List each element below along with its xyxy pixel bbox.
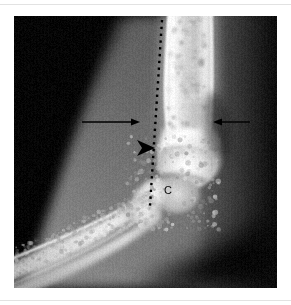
capitellum-label: C — [164, 185, 172, 196]
radiograph-panel: C — [14, 16, 277, 288]
figure-top-rule — [0, 4, 291, 5]
radiograph-image — [14, 16, 277, 288]
figure-bottom-rule — [0, 300, 291, 301]
figure-root: C — [0, 0, 291, 305]
